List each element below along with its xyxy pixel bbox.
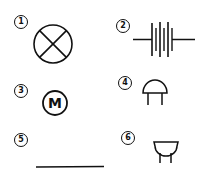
bowl-terminal-icon — [154, 142, 178, 163]
dome-terminal-icon — [143, 80, 167, 105]
symbols-canvas: M — [0, 0, 206, 181]
lamp-icon — [34, 25, 72, 63]
wire-line-icon — [36, 167, 104, 168]
motor-letter: M — [48, 95, 62, 111]
motor-icon: M — [43, 91, 67, 115]
battery-icon — [133, 22, 195, 57]
